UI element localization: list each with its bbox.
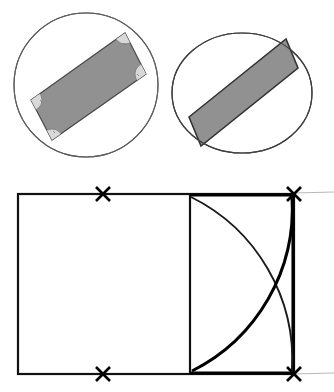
- geometry-canvas: [0, 0, 334, 392]
- figure-sheet: Circle with inscribed rectangle and righ…: [0, 0, 334, 392]
- figure-left-circle-with-inscribed-rectangle: [14, 13, 158, 157]
- figure-right-ellipse-with-inscribed-rectangle: [172, 33, 312, 153]
